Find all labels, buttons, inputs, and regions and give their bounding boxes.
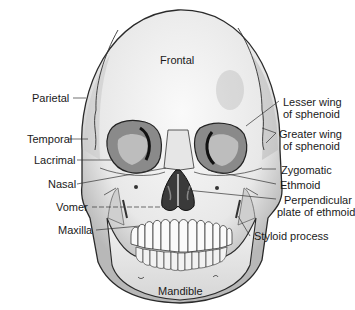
upper-teeth xyxy=(131,220,232,253)
label-parietal: Parietal xyxy=(32,92,69,104)
label-vomer: Vomer xyxy=(56,201,88,213)
label-greater-wing-sphenoid: Greater wing of sphenoid xyxy=(279,128,342,152)
label-perpendicular-plate-ethmoid: Perpendicular plate of ethmoid xyxy=(277,194,355,218)
label-nasal: Nasal xyxy=(48,178,76,190)
label-mandible: Mandible xyxy=(158,285,203,297)
label-frontal: Frontal xyxy=(160,54,194,66)
label-maxilla: Maxilla xyxy=(58,224,92,236)
label-ethmoid: Ethmoid xyxy=(280,179,320,191)
label-styloid-process: Styloid process xyxy=(254,230,329,242)
label-temporal: Temporal xyxy=(27,133,72,145)
label-zygomatic: Zygomatic xyxy=(281,164,332,176)
label-lacrimal: Lacrimal xyxy=(34,154,76,166)
label-lesser-wing-sphenoid: Lesser wing of sphenoid xyxy=(283,96,342,120)
